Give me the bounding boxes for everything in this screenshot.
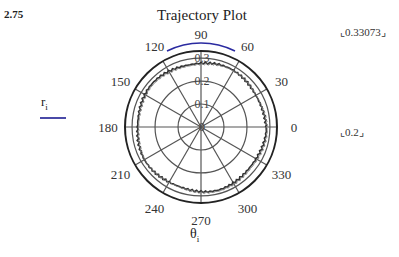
x-axis-label-text: θ <box>190 226 197 241</box>
angular-tick-label: 210 <box>111 167 131 182</box>
angular-tick-label: 300 <box>238 201 258 216</box>
angular-tick-label: 150 <box>111 74 131 89</box>
radial-tick-label: 0.2 <box>195 74 210 88</box>
angular-tick-label: 30 <box>275 74 288 89</box>
angular-tick-label: 330 <box>272 167 292 182</box>
angular-tick-label: 180 <box>98 120 118 135</box>
x-axis-label[interactable]: θi <box>190 226 199 244</box>
angular-tick-label: 120 <box>145 39 165 54</box>
radial-tick-label: 0.3 <box>195 51 210 65</box>
top-arc-highlight <box>167 43 235 51</box>
radial-tick-label: 0 <box>199 120 205 134</box>
x-axis-label-sub: i <box>197 234 200 244</box>
radial-tick-label: 0.1 <box>195 97 210 111</box>
angular-tick-label: 0 <box>291 120 298 135</box>
polar-plot[interactable]: 00.10.20.3030609012015018021024027030033… <box>0 0 399 257</box>
angular-tick-label: 90 <box>195 27 208 42</box>
angular-tick-label: 240 <box>145 201 165 216</box>
angular-tick-label: 60 <box>241 39 254 54</box>
